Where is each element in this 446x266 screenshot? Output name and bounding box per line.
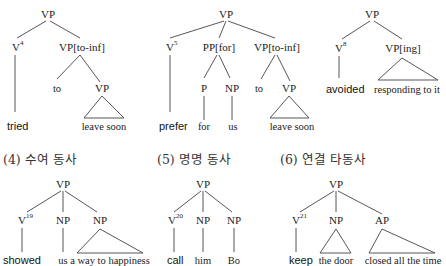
node-v: V (292, 214, 300, 226)
node-np-2: NP (93, 214, 107, 226)
node-v-superscript: 5 (174, 39, 178, 47)
tree-ditransitive: (4) 수여 동사 VP V 19 NP NP showed us a way … (3, 152, 150, 266)
word-leave-soon: leave soon (270, 121, 315, 132)
word-avoided: avoided (326, 83, 365, 95)
node-vp-root: VP (365, 8, 379, 20)
node-vp-root: VP (196, 178, 210, 190)
word-us: us (228, 121, 237, 132)
tree-prefer: VP V 5 PP[for] VP[to-inf] P NP to VP pre… (159, 8, 315, 132)
word-the-door: the door (319, 255, 354, 266)
word-prefer: prefer (159, 120, 188, 132)
word-a-way-to-happiness: a way to happiness (70, 255, 150, 266)
word-closed-all-the-time: closed all the time (365, 255, 442, 266)
syntax-trees-diagram: VP V 4 VP[to-inf] to VP tried leave soon… (0, 0, 446, 266)
node-v-superscript: 21 (300, 212, 308, 220)
node-vp: VP (282, 82, 296, 94)
section-title-6: (6) 연결 타동사 (280, 152, 366, 167)
node-v: V (18, 214, 26, 226)
node-vp-to-inf: VP[to-inf] (254, 41, 300, 53)
node-vp-root: VP (329, 178, 343, 190)
node-v: V (168, 214, 176, 226)
node-v-superscript: 19 (26, 212, 34, 220)
section-title-4: (4) 수여 동사 (3, 152, 77, 167)
word-showed: showed (3, 254, 41, 266)
node-v-superscript: 20 (176, 212, 184, 220)
word-responding-to-it: responding to it (374, 84, 440, 95)
node-vp-root: VP (41, 8, 55, 20)
node-pp-for: PP[for] (203, 41, 235, 53)
node-np-2: NP (227, 214, 241, 226)
node-ap: AP (375, 214, 389, 226)
word-for: for (198, 121, 211, 132)
node-v-superscript: 8 (343, 40, 347, 48)
node-np-1: NP (196, 214, 210, 226)
word-tried: tried (7, 120, 28, 132)
node-v: V (12, 41, 20, 53)
node-vp-root: VP (56, 178, 70, 190)
node-vp-to-inf: VP[to-inf] (59, 41, 105, 53)
word-us: us (58, 255, 67, 266)
node-p: P (201, 82, 207, 94)
node-vp-root: VP (219, 8, 233, 20)
word-keep: keep (289, 254, 313, 266)
tree-naming: (5) 명명 동사 VP V 20 NP NP call him Bo (157, 152, 241, 266)
node-vp: VP (95, 82, 109, 94)
node-np: NP (225, 82, 239, 94)
node-np-1: NP (56, 214, 70, 226)
word-bo: Bo (228, 255, 240, 266)
node-np: NP (329, 214, 343, 226)
node-v: V (166, 41, 174, 53)
tree-tried: VP V 4 VP[to-inf] to VP tried leave soon (7, 8, 127, 132)
word-leave-soon: leave soon (82, 121, 127, 132)
tree-linking: (6) 연결 타동사 VP V 21 NP AP keep the door c… (280, 152, 442, 266)
node-to: to (53, 83, 61, 94)
node-to: to (255, 83, 263, 94)
section-title-5: (5) 명명 동사 (157, 152, 231, 167)
tree-avoided: VP V 8 VP[ing] avoided responding to it (326, 8, 440, 95)
word-him: him (195, 255, 211, 266)
node-vp-ing: VP[ing] (385, 42, 420, 54)
node-v: V (335, 42, 343, 54)
node-v-superscript: 4 (20, 39, 24, 47)
word-call: call (167, 254, 184, 266)
